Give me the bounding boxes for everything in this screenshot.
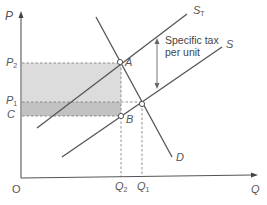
- y-axis-label: P: [5, 10, 13, 22]
- point-a-marker: [117, 59, 122, 64]
- c-label: C: [7, 109, 15, 120]
- point-a-label: A: [125, 57, 132, 68]
- st-label-sub: T: [200, 10, 204, 17]
- x-axis-arrow-icon: [251, 173, 258, 178]
- point-b-label: B: [126, 114, 133, 125]
- demand-label: D: [176, 152, 184, 163]
- tax-annotation-line2: per unit: [165, 46, 219, 58]
- p2-label-sub: 2: [13, 62, 17, 69]
- q1-label-main: Q: [137, 180, 146, 192]
- p1-label-sub: 1: [13, 100, 17, 107]
- tax-annotation-line1: Specific tax: [165, 34, 219, 46]
- y-axis-arrow-icon: [19, 11, 24, 18]
- supply-with-tax-label: ST: [193, 5, 205, 17]
- point-b-marker: [118, 113, 123, 118]
- producer-tax-burden-area: [22, 102, 121, 116]
- x-axis-label: Q: [251, 184, 260, 195]
- x-axis: [21, 175, 253, 178]
- consumer-tax-burden-area: [22, 63, 121, 102]
- supply-label: S: [226, 39, 233, 50]
- q1-label-sub: 1: [146, 186, 150, 193]
- q2-label: Q2: [115, 181, 127, 193]
- tax-arrow-down-icon: [155, 83, 160, 89]
- p2-label: P2: [6, 57, 17, 69]
- q2-label-sub: 2: [124, 186, 128, 193]
- diagram-canvas: [0, 0, 267, 205]
- equilibrium-marker: [139, 101, 144, 106]
- tax-annotation: Specific tax per unit: [165, 34, 219, 58]
- p1-label: P1: [6, 95, 17, 107]
- q1-label: Q1: [137, 181, 149, 193]
- q2-label-main: Q: [115, 180, 124, 192]
- origin-label: O: [12, 184, 21, 195]
